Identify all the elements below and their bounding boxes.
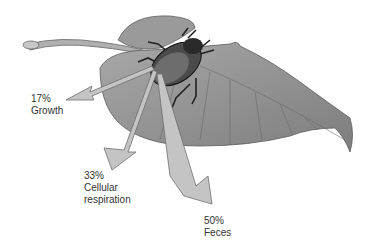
diagram-canvas — [0, 0, 372, 245]
respiration-percent: 33% — [84, 170, 131, 182]
growth-percent: 17% — [31, 93, 63, 105]
leaf — [100, 42, 353, 152]
feces-label: 50% Feces — [204, 215, 231, 239]
feces-percent: 50% — [204, 215, 231, 227]
feces-text: Feces — [204, 227, 231, 239]
respiration-label: 33% Cellular respiration — [84, 170, 131, 206]
growth-text: Growth — [31, 105, 63, 117]
respiration-text-1: Cellular — [84, 182, 131, 194]
respiration-text-2: respiration — [84, 194, 131, 206]
growth-label: 17% Growth — [31, 93, 63, 117]
